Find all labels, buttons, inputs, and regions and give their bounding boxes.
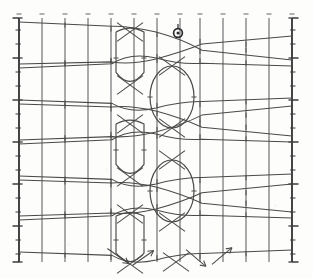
- direction-arrow-2: [184, 247, 208, 268]
- lobe-lower: [116, 212, 144, 261]
- line-09: [19, 180, 292, 212]
- line-11: [19, 208, 292, 220]
- figure-canvas: [0, 0, 313, 278]
- lobe-upper: [116, 28, 144, 81]
- right-axis: [288, 18, 298, 262]
- line-02: [19, 36, 292, 64]
- line-05: [19, 104, 292, 136]
- vertical-gridlines-layer: [17, 14, 295, 262]
- flux-surface-plot: [0, 0, 313, 278]
- line-12: [19, 250, 292, 262]
- line-07: [19, 132, 292, 144]
- line-01: [19, 22, 292, 60]
- o-point-center: [177, 32, 180, 35]
- field-lines-layer: [19, 22, 292, 262]
- direction-arrow-0: [106, 246, 131, 266]
- line-03: [19, 56, 292, 68]
- direction-arrow-3: [210, 245, 234, 266]
- line-04: [19, 98, 292, 110]
- o-point-marker: [174, 24, 183, 37]
- lobe-middle: [116, 120, 144, 173]
- line-08: [19, 174, 292, 186]
- magnetic-islands-layer: [116, 23, 194, 274]
